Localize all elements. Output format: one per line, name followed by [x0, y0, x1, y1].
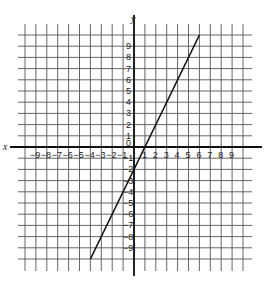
x-tick-label: 7 — [207, 150, 212, 160]
x-tick-label: 5 — [186, 150, 191, 160]
x-tick-label: −3 — [95, 150, 105, 160]
x-tick-label: 8 — [218, 150, 223, 160]
y-tick-label: −6 — [123, 209, 133, 219]
x-tick-label: −8 — [41, 150, 51, 160]
y-tick-label: −7 — [123, 220, 133, 230]
coordinate-plane: x y −9−8−7−6−5−4−3−2−1012345678998765432… — [0, 0, 267, 282]
x-tick-label: 6 — [196, 150, 201, 160]
y-tick-label: −9 — [123, 243, 133, 253]
y-tick-label: 4 — [126, 97, 131, 107]
y-tick-label: 8 — [126, 52, 131, 62]
x-tick-label: −5 — [74, 150, 84, 160]
x-tick-label: 9 — [229, 150, 234, 160]
y-tick-label: −5 — [123, 198, 133, 208]
x-tick-label: 2 — [153, 150, 158, 160]
y-tick-label: 1 — [126, 131, 131, 141]
y-tick-label: −1 — [123, 153, 133, 163]
x-axis-label: x — [2, 141, 8, 152]
y-tick-label: 7 — [126, 64, 131, 74]
y-tick-label: 9 — [126, 41, 131, 51]
x-tick-label: −2 — [106, 150, 116, 160]
y-axis-label: y — [130, 13, 136, 24]
x-tick-label: −7 — [52, 150, 62, 160]
y-tick-label: 6 — [126, 75, 131, 85]
x-tick-label: −4 — [84, 150, 94, 160]
x-tick-label: −6 — [63, 150, 73, 160]
x-tick-label: 3 — [164, 150, 169, 160]
y-tick-label: −8 — [123, 232, 133, 242]
y-tick-label: 5 — [126, 86, 131, 96]
x-tick-label: 4 — [175, 150, 180, 160]
x-tick-label: −9 — [30, 150, 40, 160]
y-tick-label: 3 — [126, 108, 131, 118]
y-tick-label: 2 — [126, 120, 131, 130]
